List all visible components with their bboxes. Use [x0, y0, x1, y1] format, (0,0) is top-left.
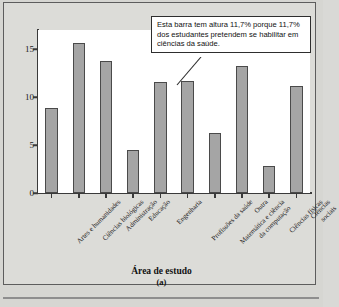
x-tick-mark [132, 193, 134, 198]
bar [100, 61, 113, 193]
bar [73, 43, 86, 193]
x-axis-title: Área de estudo [0, 266, 323, 276]
y-tick-mark [33, 96, 38, 98]
y-tick-mark [33, 48, 38, 50]
x-tick-mark [268, 193, 270, 198]
x-tick-mark [187, 193, 189, 198]
x-tick-mark [78, 193, 80, 198]
bar [127, 150, 140, 193]
x-tick-mark [160, 193, 162, 198]
bottom-rule [3, 297, 319, 299]
x-tick-mark [214, 193, 216, 198]
bar [209, 133, 222, 193]
y-tick-mark [33, 192, 38, 194]
annotation-callout: Esta barra tem altura 11,7% porque 11,7%… [151, 16, 311, 53]
bar [154, 82, 167, 193]
plot-area: 051015 [38, 30, 310, 193]
bar [290, 86, 303, 193]
bar [45, 108, 58, 193]
x-tick-mark [241, 193, 243, 198]
y-tick-mark [33, 144, 38, 146]
x-tick-mark [105, 193, 107, 198]
x-tick-mark [296, 193, 298, 198]
panel-letter: (a) [0, 277, 323, 287]
bar [181, 81, 194, 193]
bar [263, 166, 276, 193]
bar [236, 66, 249, 193]
x-tick-mark [51, 193, 53, 198]
